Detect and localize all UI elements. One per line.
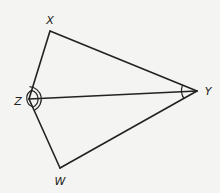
vertex-label-x: X [46,15,54,26]
segment-zx [29,31,50,99]
segment-wz [29,99,60,168]
segment-zy-diagonal [29,91,197,99]
segment-xy [50,31,197,91]
segment-yw [60,91,197,168]
vertex-label-z: Z [14,96,22,107]
vertex-label-y: Y [205,86,212,97]
vertex-label-w: W [55,176,66,187]
geometry-diagram [0,0,220,193]
